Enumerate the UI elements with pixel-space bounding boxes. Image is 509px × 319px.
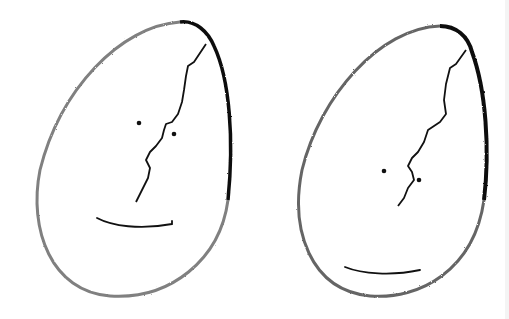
right-egg-outline-light [299,26,484,296]
left-egg-right-eye [172,132,177,137]
right-egg-right-eye [417,178,422,183]
right-egg-left-eye [382,169,387,174]
right-egg-outline-dark [440,26,487,200]
left-egg-left-eye [137,121,142,126]
left-egg-outline-dark [180,22,231,200]
left-egg [37,22,231,296]
left-egg-crack [136,44,206,202]
right-egg-mouth [345,267,420,274]
right-egg [299,26,487,296]
left-egg-outline-light [37,22,228,296]
egg-sketch [0,0,509,319]
left-egg-mouth [97,218,172,227]
right-egg-crack [398,50,466,206]
